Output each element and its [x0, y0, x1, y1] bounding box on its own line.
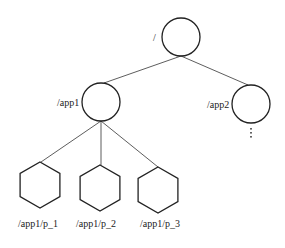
node-label-p1: /app1/p_1: [18, 218, 58, 229]
edge-root-app2: [181, 56, 248, 85]
node-p2-hexagon: [80, 165, 120, 211]
node-label-app2: /app2: [207, 99, 229, 110]
node-label-p2: /app1/p_2: [76, 218, 116, 229]
ellipsis-dot: [250, 136, 251, 138]
continuation-ellipsis: [250, 128, 251, 138]
nodes-layer: [20, 18, 270, 213]
edge-app1-p1: [41, 121, 101, 162]
edge-app1-p3: [101, 121, 158, 167]
ellipsis-dot: [250, 128, 251, 130]
node-label-p3: /app1/p_3: [140, 218, 180, 229]
node-app2-circle: [232, 85, 270, 123]
node-p3-hexagon: [138, 167, 178, 213]
tree-diagram: //app1/app2/app1/p_1/app1/p_2/app1/p_3: [0, 0, 285, 248]
labels-layer: //app1/app2/app1/p_1/app1/p_2/app1/p_3: [18, 32, 229, 229]
node-label-root: /: [153, 32, 156, 43]
ellipsis-dot: [250, 132, 251, 134]
node-root-circle: [162, 18, 200, 56]
node-app1-circle: [82, 83, 120, 121]
node-p1-hexagon: [20, 162, 60, 208]
edges-layer: [41, 56, 248, 167]
edge-root-app1: [104, 56, 181, 83]
node-label-app1: /app1: [57, 97, 79, 108]
